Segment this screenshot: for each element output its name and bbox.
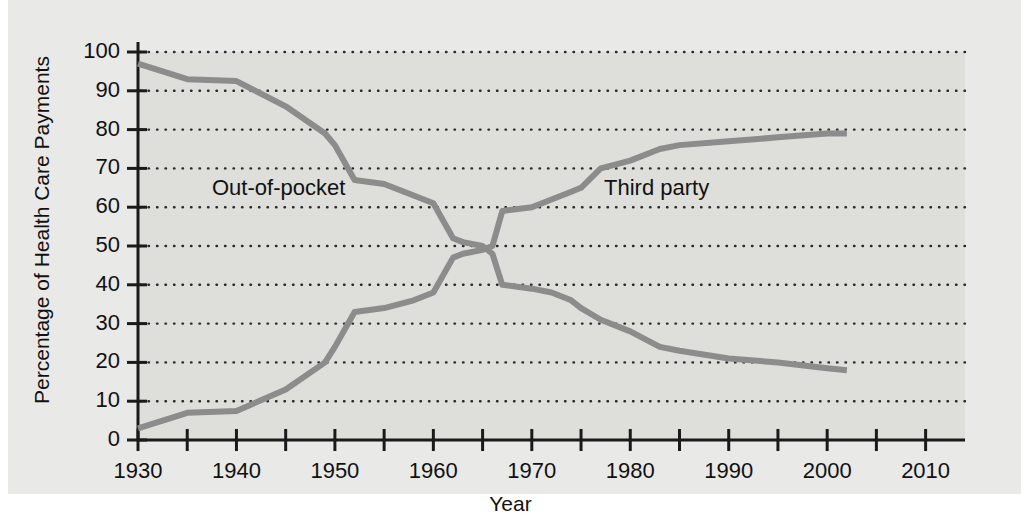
axis-ticks — [127, 52, 926, 451]
y-tick-label: 20 — [50, 348, 120, 374]
y-tick-label: 10 — [50, 387, 120, 413]
series-label-out-of-pocket: Out-of-pocket — [212, 175, 345, 201]
series-lines — [138, 64, 847, 429]
y-tick-label: 60 — [50, 193, 120, 219]
y-tick-label: 50 — [50, 232, 120, 258]
axis-lines — [138, 42, 965, 440]
gridlines — [140, 52, 965, 401]
y-tick-label: 30 — [50, 310, 120, 336]
y-tick-label: 80 — [50, 116, 120, 142]
y-axis-title: Percentage of Health Care Payments — [30, 35, 54, 425]
chart-canvas — [0, 0, 1021, 529]
y-tick-label: 0 — [50, 426, 120, 452]
figure-container: 0102030405060708090100 19301940195019601… — [0, 0, 1021, 529]
y-tick-label: 100 — [50, 38, 120, 64]
y-tick-label: 90 — [50, 77, 120, 103]
y-tick-label: 70 — [50, 154, 120, 180]
x-axis-title: Year — [0, 492, 1021, 516]
series-label-third-party: Third party — [604, 175, 709, 201]
x-tick-label: 2010 — [866, 458, 986, 484]
y-tick-label: 40 — [50, 271, 120, 297]
